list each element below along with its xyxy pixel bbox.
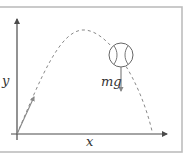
force-label: mg: [101, 74, 122, 89]
velocity-arrow: [17, 97, 34, 134]
trajectory-path: [17, 30, 152, 134]
baseball-icon: [109, 43, 133, 67]
y-axis-label: y: [1, 73, 10, 88]
projectile-diagram: mg y x: [0, 0, 186, 160]
x-axis-label: x: [86, 134, 94, 149]
diagram-frame: [0, 7, 182, 152]
